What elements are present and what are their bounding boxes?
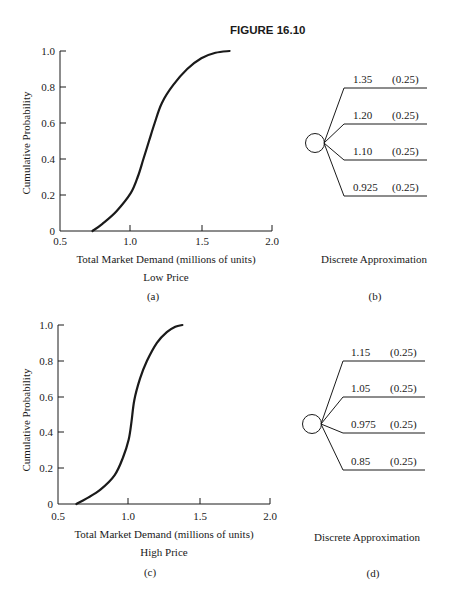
panel-d-branch-prob: (0.25) (390, 382, 417, 395)
figure-canvas: FIGURE 16.10 Cumulative Probability 0 0.… (0, 0, 449, 606)
panel-b-branch-prob: (0.25) (392, 73, 419, 86)
panel-a-xtick-label: 1.5 (195, 235, 209, 247)
panel-b-branch: 1.10 (0.25) (324, 143, 427, 160)
panel-a-ytick-label: 1.0 (41, 45, 55, 57)
panel-a-x-ticks: 0.5 1.0 1.5 2.0 (53, 225, 279, 247)
panel-a-xtick-label: 1.0 (123, 235, 137, 247)
panel-c-ytick-label: 0.6 (39, 391, 53, 403)
panel-a-cdf-curve (93, 51, 230, 231)
panel-c-ytick-label: 0.4 (39, 426, 53, 438)
panel-c-chart: Cumulative Probability 0 0.2 0.4 0.6 0.8… (20, 319, 277, 579)
panel-c-xtick-label: 1.0 (121, 510, 135, 522)
panel-b-branch-prob: (0.25) (392, 109, 419, 122)
panel-d-branch-value: 1.05 (351, 382, 371, 394)
panel-b-branch-value: 1.35 (353, 73, 373, 85)
panel-c-x-ticks: 0.5 1.0 1.5 2.0 (51, 498, 277, 522)
panel-d-branch-value: 1.15 (351, 346, 371, 358)
panel-b-branch-value: 1.20 (353, 109, 373, 121)
panel-a-label: (a) (147, 290, 160, 303)
panel-a-ytick-label: 0.6 (41, 117, 55, 129)
panel-a-ytick-label: 0.8 (41, 81, 55, 93)
panel-a-ytick-label: 0.4 (41, 153, 55, 165)
panel-b-branch-value: 1.10 (353, 145, 373, 157)
panel-a-ylabel: Cumulative Probability (20, 91, 32, 194)
panel-b-label: (b) (369, 290, 382, 303)
figure-title: FIGURE 16.10 (230, 24, 305, 36)
panel-c-ytick-label: 0 (48, 498, 54, 510)
panel-b-branch-prob: (0.25) (392, 181, 419, 194)
panel-b-chance-node (306, 134, 325, 153)
panel-d-branch-prob: (0.25) (390, 418, 417, 431)
panel-a-y-ticks: 0 0.2 0.4 0.6 0.8 1.0 (41, 45, 66, 237)
panel-a-xlabel: Total Market Demand (millions of units) (76, 253, 256, 266)
panel-b-branch: 1.20 (0.25) (324, 109, 427, 143)
panel-c-ytick-label: 0.8 (39, 355, 53, 367)
panel-d-branch-prob: (0.25) (390, 455, 417, 468)
panel-b-tree: 1.35 (0.25) 1.20 (0.25) 1.10 (0.25) 0.92… (306, 73, 428, 303)
panel-d-label: (d) (367, 567, 380, 580)
panel-c-subtitle: High Price (140, 546, 187, 558)
panel-b-branch-value: 0.925 (353, 181, 378, 193)
panel-a-subtitle: Low Price (143, 271, 189, 283)
panel-a-ytick-label: 0.2 (41, 189, 55, 201)
panel-d-tree: 1.15 (0.25) 1.05 (0.25) 0.975 (0.25) 0.8… (303, 346, 426, 580)
panel-a-xtick-label: 0.5 (53, 235, 67, 247)
panel-c-y-ticks: 0 0.2 0.4 0.6 0.8 1.0 (39, 319, 64, 510)
panel-d-branch-prob: (0.25) (390, 346, 417, 359)
panel-a-xtick-label: 2.0 (265, 235, 279, 247)
panel-c-ylabel: Cumulative Probability (20, 368, 32, 471)
panel-c-label: (c) (144, 566, 157, 579)
panel-d-branch: 0.975 (0.25) (321, 418, 425, 433)
panel-c-ytick-label: 0.2 (39, 462, 53, 474)
panel-b-branch-prob: (0.25) (392, 145, 419, 158)
panel-a-chart: Cumulative Probability 0 0.2 0.4 0.6 0.8… (20, 45, 279, 303)
panel-c-cdf-curve (76, 325, 182, 504)
panel-b-branch: 1.35 (0.25) (324, 73, 427, 143)
panel-d-chance-node (303, 415, 322, 434)
panel-c-xtick-label: 0.5 (51, 510, 65, 522)
panel-c-xtick-label: 2.0 (263, 510, 277, 522)
panel-c-ytick-label: 1.0 (39, 319, 53, 331)
panel-b-caption: Discrete Approximation (321, 253, 428, 265)
panel-d-caption: Discrete Approximation (314, 531, 421, 543)
panel-d-branch-value: 0.85 (351, 455, 371, 467)
panel-d-branch-value: 0.975 (351, 418, 376, 430)
panel-c-xlabel: Total Market Demand (millions of units) (74, 528, 254, 541)
panel-c-xtick-label: 1.5 (193, 510, 207, 522)
